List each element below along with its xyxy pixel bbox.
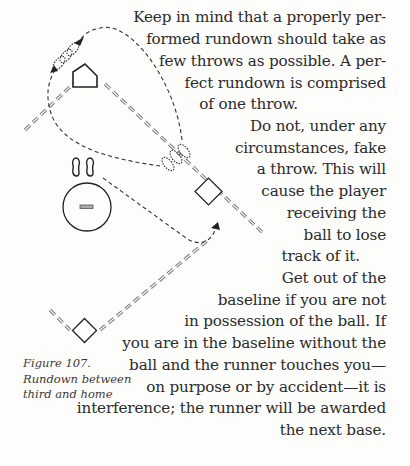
text-line: of one throw. — [199, 95, 298, 113]
text-line: cause the player — [261, 182, 386, 200]
text-line: Get out of the — [282, 269, 386, 287]
text-line: ball to lose — [304, 226, 386, 244]
caption-line: third and home — [23, 387, 131, 403]
caption-line: Rundown between — [23, 372, 131, 388]
text-line: receiving the — [287, 204, 386, 222]
text-line: formed rundown should take as — [146, 30, 386, 48]
text-line: you are in the baseline without the — [122, 334, 386, 352]
text-line: fect rundown is comprised — [185, 74, 386, 92]
text-line: Do not, under any — [250, 117, 386, 135]
third-base-icon — [195, 178, 222, 205]
text-line: circumstances, fake — [235, 139, 386, 157]
pitchers-mound-icon — [63, 183, 111, 231]
caption-line: Figure 107. — [23, 356, 131, 372]
text-line: ball and the runner touches you— — [129, 356, 386, 374]
second-base-icon — [72, 318, 96, 342]
text-line: on purpose or by accident—it is — [146, 378, 386, 396]
text-line: few throws as possible. A per- — [159, 52, 386, 70]
text-line: in possession of the ball. If — [184, 312, 386, 330]
text-line: Keep in mind that a properly per- — [133, 8, 386, 26]
text-line: track of it. — [281, 247, 360, 265]
text-line: baseline if you are not — [218, 291, 386, 309]
footprints-icon — [73, 158, 94, 176]
runner-footprints-mid-icon — [160, 142, 192, 172]
home-plate-icon — [73, 64, 97, 87]
runner-footprints-home-icon — [51, 40, 81, 71]
figure-caption: Figure 107. Rundown between third and ho… — [23, 356, 131, 403]
text-line: the next base. — [280, 421, 386, 439]
text-line: a throw. This will — [257, 160, 386, 178]
